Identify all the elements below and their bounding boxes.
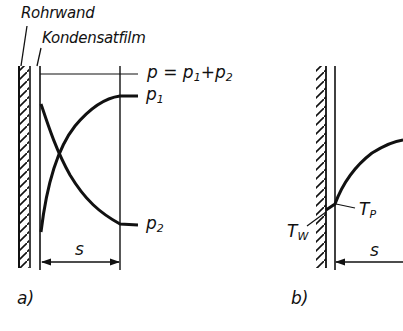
panel-b-caption: b) — [291, 290, 308, 307]
film-leader — [37, 48, 41, 66]
curve-p1 — [41, 96, 138, 232]
p1-label: p1 — [146, 86, 164, 105]
wall-temperature-label: TW — [287, 223, 308, 242]
interface-temperature-label: TP — [359, 201, 376, 220]
panel-a-caption: a) — [17, 290, 34, 307]
condensate-film-label: Kondensatfilm — [42, 31, 145, 46]
thickness-label-b: s — [370, 242, 379, 259]
tp-leader — [336, 204, 355, 208]
panel-b — [307, 66, 403, 270]
diagram-drawing — [0, 0, 403, 331]
pipe-wall-b — [316, 66, 326, 268]
pipe-wall-a — [19, 66, 30, 268]
thickness-label-a: s — [75, 241, 84, 258]
p2-label: p2 — [146, 215, 164, 234]
pipe-wall-leader — [21, 26, 27, 66]
pipe-wall-label: Rohrwand — [21, 6, 94, 21]
total-pressure-label: p = p1+p2 — [147, 64, 233, 83]
panel-a — [19, 26, 138, 270]
condensation-diagram: Rohrwand Kondensatfilm p = p1+p2 p1 p2 s… — [0, 0, 403, 331]
